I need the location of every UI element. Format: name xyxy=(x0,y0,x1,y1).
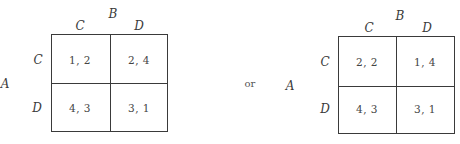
column-strategy-label: D xyxy=(422,22,432,34)
column-strategy-label: C xyxy=(75,20,84,32)
payoff-cell: 3, 1 xyxy=(414,104,436,115)
row-strategy-label: D xyxy=(320,103,330,115)
column-strategy-label: C xyxy=(364,22,373,34)
grid-divider-horizontal xyxy=(339,86,454,87)
row-player-label: A xyxy=(286,80,295,92)
payoff-cell: 3, 1 xyxy=(128,103,150,114)
row-strategy-label: C xyxy=(320,56,329,68)
payoff-cell: 2, 4 xyxy=(128,55,150,66)
row-strategy-label: D xyxy=(32,102,42,114)
row-player-label: A xyxy=(1,78,10,90)
grid-divider-vertical xyxy=(396,37,397,133)
column-player-label: B xyxy=(396,10,405,22)
payoff-cell: 1, 2 xyxy=(69,55,91,66)
payoff-cell: 4, 3 xyxy=(69,103,91,114)
payoff-cell: 4, 3 xyxy=(356,104,378,115)
grid-divider-horizontal xyxy=(52,83,167,84)
payoff-grid xyxy=(51,34,168,132)
column-player-label: B xyxy=(109,8,118,20)
payoff-cell: 1, 4 xyxy=(414,57,436,68)
payoff-cell: 2, 2 xyxy=(356,57,378,68)
payoff-grid xyxy=(338,36,455,134)
row-strategy-label: C xyxy=(33,54,42,66)
column-strategy-label: D xyxy=(134,20,144,32)
connector-text: or xyxy=(245,79,256,89)
